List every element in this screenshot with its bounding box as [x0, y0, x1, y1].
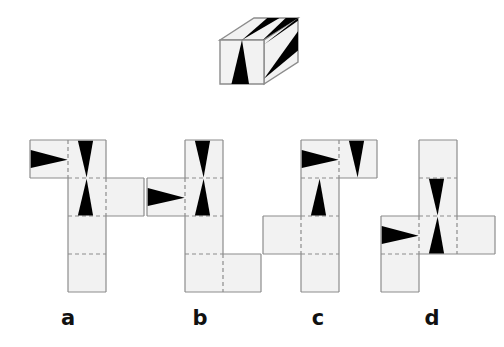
patterned-cube — [220, 18, 299, 84]
figure-canvas: a b c d — [0, 0, 504, 347]
net-face — [68, 254, 106, 292]
net-face — [106, 178, 144, 216]
net-face — [185, 216, 223, 254]
net-face — [419, 140, 457, 178]
option-label-a: a — [48, 306, 88, 330]
cube-net-b[interactable] — [147, 140, 261, 292]
option-label-b: b — [180, 306, 220, 330]
cube-net-a[interactable] — [30, 140, 144, 292]
net-face — [457, 216, 495, 254]
option-label-d: d — [412, 306, 452, 330]
cube-nets-group — [30, 140, 495, 292]
cube-net-c[interactable] — [263, 140, 377, 292]
net-face — [68, 216, 106, 254]
net-face — [301, 254, 339, 292]
net-face — [185, 254, 223, 292]
net-face — [263, 216, 301, 254]
option-label-c: c — [298, 306, 338, 330]
figure-svg — [0, 0, 504, 347]
net-face — [381, 254, 419, 292]
net-face — [223, 254, 261, 292]
cube-net-d[interactable] — [381, 140, 495, 292]
net-face — [301, 216, 339, 254]
